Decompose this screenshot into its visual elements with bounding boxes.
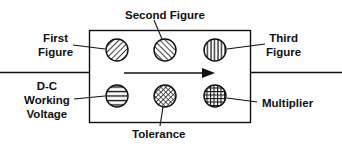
dc-working-voltage-dot (106, 85, 128, 107)
third-figure-label: Third Figure (266, 31, 301, 59)
third-figure-label-line2: Figure (266, 45, 301, 59)
third-figure-dot (204, 39, 226, 61)
first-figure-label-line2: Figure (38, 45, 73, 59)
multiplier-dot (204, 85, 226, 107)
first-figure-dot (106, 39, 128, 61)
third-figure-label-line1: Third (266, 31, 301, 45)
dc-working-voltage-label: D-C Working Voltage (24, 79, 70, 121)
dc-voltage-label-line2: Working (24, 93, 70, 107)
dc-voltage-label-line1: D-C (24, 79, 70, 93)
second-figure-dot (154, 39, 176, 61)
first-figure-label: First Figure (38, 31, 73, 59)
multiplier-label: Multiplier (262, 96, 313, 110)
tolerance-dot (154, 85, 176, 107)
dc-voltage-label-line3: Voltage (24, 107, 70, 121)
second-figure-label: Second Figure (125, 8, 205, 22)
first-figure-label-line1: First (38, 31, 73, 45)
tolerance-label: Tolerance (132, 127, 185, 141)
